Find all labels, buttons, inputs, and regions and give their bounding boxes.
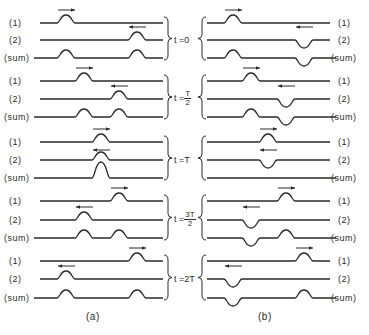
- panel-a-wave1-line: [40, 15, 163, 23]
- left-arrow-icon: [225, 264, 242, 268]
- panel-b-label-wave2: (2): [338, 94, 351, 104]
- left-brace-icon: [198, 195, 206, 240]
- panel-a-wave1-line: [40, 134, 163, 142]
- panel-a-wave1-line: [40, 253, 163, 261]
- panel-a-wave1-line: [40, 73, 163, 81]
- left-arrow-icon: [111, 84, 128, 88]
- panel-b-label-wave1: (1): [338, 256, 351, 266]
- panel-a-wave2-line: [40, 271, 163, 279]
- panel-b-wave1-line: [207, 193, 330, 201]
- panel-b-label-sum: (sum): [331, 112, 357, 122]
- panel-b-wave1-line: [207, 253, 330, 261]
- panel-a-label-wave1: (1): [9, 137, 22, 147]
- panel-a-wave2-line: [40, 91, 163, 99]
- panel-a-sum-line: [34, 109, 163, 117]
- panel-b-label-wave2: (2): [338, 274, 351, 284]
- right-arrow-icon: [58, 8, 75, 12]
- time-label: t =T2: [174, 90, 191, 107]
- panel-b-wave2-line: [207, 279, 330, 287]
- panel-b-wave1-line: [207, 15, 330, 23]
- panel-b-label-sum: (sum): [331, 233, 357, 243]
- left-arrow-icon: [243, 205, 260, 209]
- panel-b-wave2-line: [207, 160, 330, 168]
- panel-b-label-wave1: (1): [338, 76, 351, 86]
- panel-a-label-sum: (sum): [4, 233, 30, 243]
- panel-a-label-wave1: (1): [9, 196, 22, 206]
- panel-b-label-sum: (sum): [331, 293, 357, 303]
- wave-superposition-diagram: [0, 0, 369, 335]
- panel-b-wave1-line: [207, 134, 330, 142]
- panel-b-label-wave1: (1): [338, 137, 351, 147]
- panel-b-caption: (b): [258, 311, 272, 322]
- panel-a-caption: (a): [86, 311, 100, 322]
- panel-a-wave2-line: [40, 212, 163, 220]
- panel-a-wave1-line: [40, 193, 163, 201]
- panel-b-wave1-line: [207, 73, 330, 81]
- panel-a-label-sum: (sum): [4, 53, 30, 63]
- right-arrow-icon: [129, 246, 146, 250]
- time-label: t =2T: [174, 274, 195, 284]
- left-arrow-icon: [93, 148, 110, 152]
- right-brace-icon: [164, 75, 172, 119]
- panel-b-wave2-line: [207, 220, 330, 228]
- panel-b-label-wave2: (2): [338, 35, 351, 45]
- left-arrow-icon: [296, 25, 313, 29]
- panel-b-label-wave1: (1): [338, 196, 351, 206]
- time-label: t =3T2: [174, 211, 196, 228]
- panel-b-label-sum: (sum): [331, 53, 357, 63]
- right-brace-icon: [164, 17, 172, 60]
- right-arrow-icon: [243, 66, 260, 70]
- panel-a-wave2-line: [40, 152, 163, 160]
- panel-b-sum-line: [207, 50, 336, 66]
- panel-a-label-wave2: (2): [9, 155, 22, 165]
- right-arrow-icon: [278, 186, 295, 190]
- panel-a-label-wave1: (1): [9, 76, 22, 86]
- panel-a-sum-line: [34, 290, 163, 298]
- panel-b-sum-line: [207, 109, 336, 125]
- time-label: t =0: [174, 35, 189, 45]
- right-arrow-icon: [111, 186, 128, 190]
- panel-a-label-sum: (sum): [4, 173, 30, 183]
- panel-a-sum-line: [34, 230, 163, 238]
- right-brace-icon: [164, 136, 172, 180]
- right-arrow-icon: [260, 127, 277, 131]
- panel-b-label-wave2: (2): [338, 215, 351, 225]
- panel-a-label-wave1: (1): [9, 18, 22, 28]
- panel-a-label-wave2: (2): [9, 94, 22, 104]
- left-brace-icon: [198, 75, 206, 119]
- right-arrow-icon: [225, 8, 242, 12]
- left-arrow-icon: [58, 264, 75, 268]
- panel-b-label-sum: (sum): [331, 173, 357, 183]
- panel-a-label-sum: (sum): [4, 293, 30, 303]
- panel-b-label-wave2: (2): [338, 155, 351, 165]
- panel-b-sum-line: [207, 230, 336, 246]
- panel-a-label-sum: (sum): [4, 112, 30, 122]
- right-brace-icon: [164, 195, 172, 240]
- panel-a-sum-line: [34, 50, 163, 58]
- left-brace-icon: [198, 255, 206, 300]
- panel-b-wave2-line: [207, 40, 330, 48]
- panel-b-label-wave1: (1): [338, 18, 351, 28]
- left-arrow-icon: [260, 148, 277, 152]
- right-brace-icon: [164, 255, 172, 300]
- right-arrow-icon: [76, 66, 93, 70]
- left-arrow-icon: [129, 25, 146, 29]
- right-arrow-icon: [296, 246, 313, 250]
- left-arrow-icon: [278, 84, 295, 88]
- left-brace-icon: [198, 17, 206, 60]
- panel-b-wave2-line: [207, 99, 330, 107]
- panel-a-label-wave1: (1): [9, 256, 22, 266]
- left-brace-icon: [198, 136, 206, 180]
- panel-a-wave2-line: [40, 32, 163, 40]
- panel-a-label-wave2: (2): [9, 35, 22, 45]
- panel-a-label-wave2: (2): [9, 215, 22, 225]
- time-label: t =T: [174, 155, 190, 165]
- panel-a-sum-line: [34, 162, 163, 178]
- panel-a-label-wave2: (2): [9, 274, 22, 284]
- right-arrow-icon: [93, 127, 110, 131]
- left-arrow-icon: [76, 205, 93, 209]
- panel-b-sum-line: [207, 290, 336, 306]
